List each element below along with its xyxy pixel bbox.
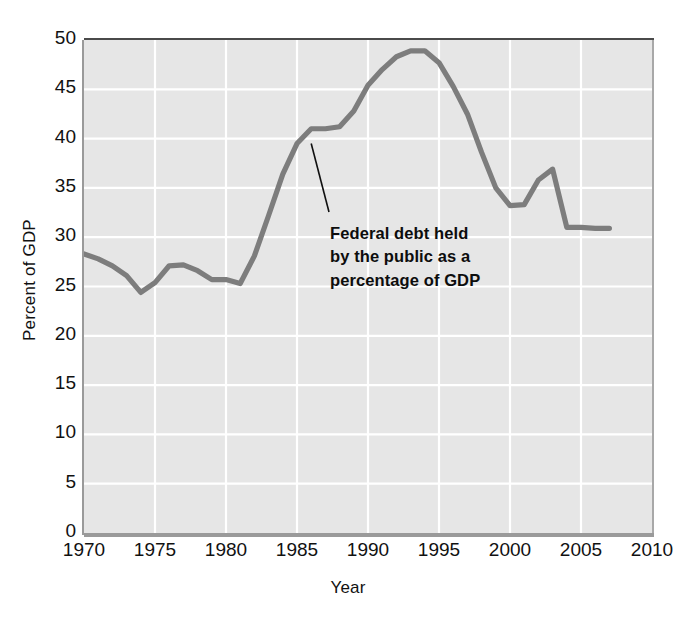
y-tick-label: 5 — [18, 471, 76, 493]
x-tick-label: 1985 — [262, 539, 332, 561]
y-tick-label: 15 — [18, 372, 76, 394]
x-tick-label: 2000 — [475, 539, 545, 561]
x-tick-label: 2010 — [617, 539, 687, 561]
y-tick-label: 45 — [18, 76, 76, 98]
y-tick-label: 50 — [18, 27, 76, 49]
annotation-line-2: by the public as a — [330, 245, 560, 268]
y-tick-label: 40 — [18, 126, 76, 148]
annotation-leader-line — [311, 144, 329, 212]
annotation-line-3: percentage of GDP — [330, 269, 560, 292]
x-tick-label: 1995 — [404, 539, 474, 561]
plot-frame-bottom — [84, 533, 654, 537]
x-tick-label: 1990 — [333, 539, 403, 561]
annotation-line-1: Federal debt held — [330, 222, 560, 245]
x-tick-label: 1980 — [191, 539, 261, 561]
y-axis-label: Percent of GDP — [20, 190, 40, 370]
leader-line — [311, 144, 329, 212]
annotation-label: Federal debt held by the public as a per… — [330, 222, 560, 292]
chart-figure: Federal debt held by the public as a per… — [0, 0, 696, 617]
x-axis-label: Year — [0, 578, 696, 598]
y-tick-label: 10 — [18, 421, 76, 443]
x-tick-label: 2005 — [546, 539, 616, 561]
x-tick-label: 1970 — [49, 539, 119, 561]
x-tick-label: 1975 — [120, 539, 190, 561]
